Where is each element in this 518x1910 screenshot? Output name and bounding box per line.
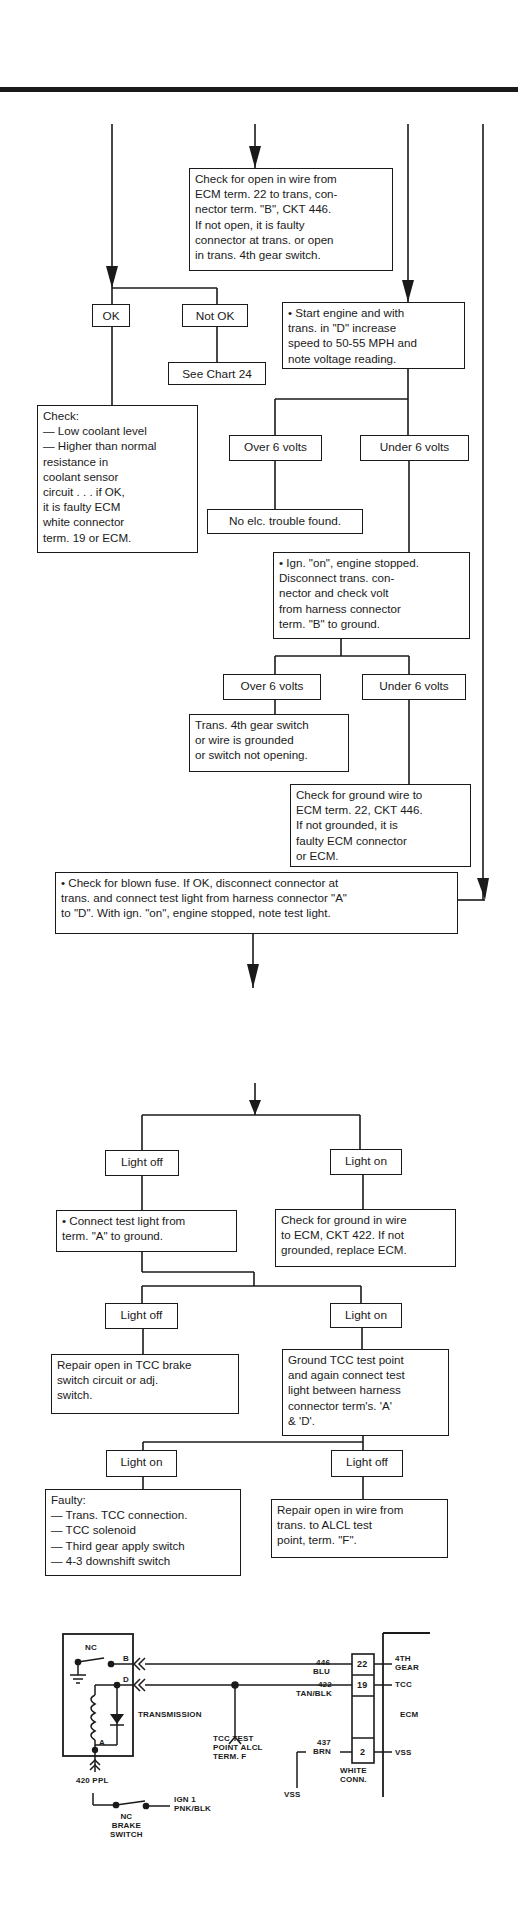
label-ecm-vss: VSS — [395, 1748, 412, 1757]
pin-2: 2 — [360, 1748, 365, 1757]
label-wire-437: 437 BRN — [313, 1738, 331, 1756]
label-wire-420: 420 PPL — [76, 1776, 109, 1785]
pin-19: 19 — [357, 1681, 367, 1690]
label-vss-left: VSS — [284, 1790, 301, 1799]
label-ecm: ECM — [400, 1710, 418, 1719]
wiring-schematic — [0, 0, 518, 1910]
label-term-b: B — [123, 1654, 129, 1663]
label-nc-switch: NC — [85, 1643, 97, 1652]
label-term-a: A — [99, 1738, 105, 1747]
label-ign1: IGN 1 PNK/BLK — [174, 1795, 211, 1813]
label-tcc-test-point: TCC TEST POINT ALCL TERM. F — [213, 1734, 263, 1761]
label-brake-switch: NC BRAKE SWITCH — [110, 1812, 143, 1839]
label-ecm-4th-gear: 4TH GEAR — [395, 1654, 419, 1672]
label-white-conn: WHITE CONN. — [340, 1766, 367, 1784]
label-wire-422: 422 TAN/BLK — [296, 1680, 332, 1698]
label-ecm-tcc: TCC — [395, 1680, 412, 1689]
label-term-d: D — [123, 1675, 129, 1684]
pin-22: 22 — [357, 1660, 367, 1669]
label-transmission: TRANSMISSION — [138, 1710, 202, 1719]
label-wire-446: 446 BLU — [313, 1658, 330, 1676]
